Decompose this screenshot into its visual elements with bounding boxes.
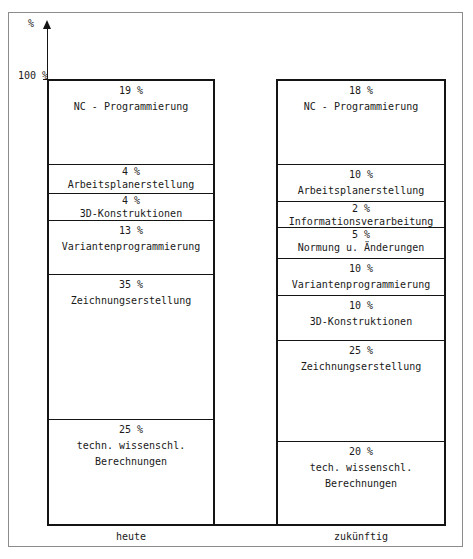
y-axis-unit-label: % xyxy=(28,18,34,30)
bar-segment: 13 % Variantenprogrammierung xyxy=(49,221,213,275)
segment-percent: 10 % xyxy=(278,262,444,275)
stacked-bar-heute: 19 % NC - Programmierung 4 % Arbeitsplan… xyxy=(47,79,215,526)
segment-label: NC - Programmierung xyxy=(49,100,213,113)
segment-percent: 20 % xyxy=(278,445,444,458)
segment-label: Arbeitsplanerstellung xyxy=(278,184,444,197)
bar-segment: 4 % Arbeitsplanerstellung xyxy=(49,165,213,194)
bar-segment: 10 % 3D-Konstruktionen xyxy=(278,296,444,341)
segment-percent: 10 % xyxy=(278,168,444,181)
segment-label: Normung u. Änderungen xyxy=(278,241,444,254)
segment-label: Variantenprogrammierung xyxy=(49,240,213,253)
segment-label-2: Berechnungen xyxy=(49,455,213,468)
bar-segment: 25 % Zeichnungserstellung xyxy=(278,341,444,442)
y-tick-label-100: 100 % xyxy=(8,70,48,82)
segment-label: tech. wissenschl. xyxy=(278,461,444,474)
segment-percent: 4 % xyxy=(49,194,213,207)
segment-label: Zeichnungserstellung xyxy=(278,360,444,373)
category-label-heute: heute xyxy=(47,531,215,543)
bar-segment: 4 % 3D-Konstruktionen xyxy=(49,194,213,221)
segment-percent: 35 % xyxy=(49,278,213,291)
segment-label: Variantenprogrammierung xyxy=(278,278,444,291)
segment-percent: 5 % xyxy=(278,228,444,241)
bar-segment: 2 % Informationsverarbeitung xyxy=(278,202,444,228)
segment-percent: 10 % xyxy=(278,299,444,312)
segment-label: techn. wissenschl. xyxy=(49,439,213,452)
bar-segment: 10 % Variantenprogrammierung xyxy=(278,259,444,296)
chart-canvas: % 100 % 19 % NC - Programmierung 4 % Arb… xyxy=(0,0,473,559)
segment-label: Informationsverarbeitung xyxy=(278,215,444,228)
y-axis-arrow-icon xyxy=(43,20,51,29)
segment-percent: 4 % xyxy=(49,165,213,178)
segment-percent: 13 % xyxy=(49,224,213,237)
bar-segment: 5 % Normung u. Änderungen xyxy=(278,228,444,259)
segment-percent: 18 % xyxy=(278,84,444,97)
bar-segment: 19 % NC - Programmierung xyxy=(49,81,213,165)
segment-percent: 25 % xyxy=(278,344,444,357)
bar-segment: 20 % tech. wissenschl. Berechnungen xyxy=(278,442,444,524)
segment-label: Zeichnungserstellung xyxy=(49,294,213,307)
segment-label: 3D-Konstruktionen xyxy=(278,315,444,328)
segment-label: 3D-Konstruktionen xyxy=(49,207,213,220)
segment-percent: 19 % xyxy=(49,84,213,97)
segment-label: Arbeitsplanerstellung xyxy=(49,178,213,191)
bar-segment: 18 % NC - Programmierung xyxy=(278,81,444,165)
stacked-bar-zukuenftig: 18 % NC - Programmierung 10 % Arbeitspla… xyxy=(276,79,446,526)
segment-percent: 2 % xyxy=(278,202,444,215)
segment-label-2: Berechnungen xyxy=(278,477,444,490)
bar-segment: 35 % Zeichnungserstellung xyxy=(49,275,213,420)
segment-percent: 25 % xyxy=(49,423,213,436)
category-label-zukuenftig: zukünftig xyxy=(276,531,446,543)
bar-segment: 25 % techn. wissenschl. Berechnungen xyxy=(49,420,213,524)
segment-label: NC - Programmierung xyxy=(278,100,444,113)
bar-segment: 10 % Arbeitsplanerstellung xyxy=(278,165,444,202)
